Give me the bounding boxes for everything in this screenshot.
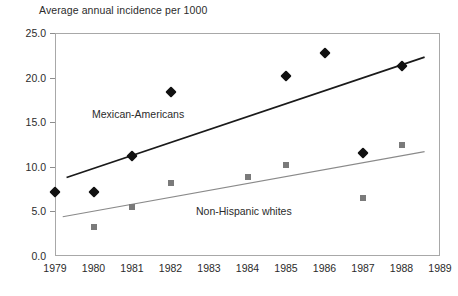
series-label-mexican-americans: Mexican-Americans — [92, 108, 184, 120]
trendline-layer — [0, 0, 458, 296]
chart-container: Average annual incidence per 1000 0.05.0… — [0, 0, 458, 296]
series-label-non-hispanic-whites: Non-Hispanic whites — [196, 205, 292, 217]
